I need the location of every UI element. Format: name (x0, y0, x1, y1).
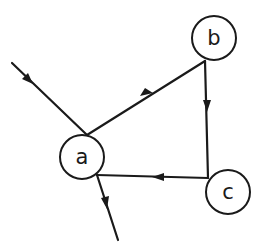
edge-a-to-b (87, 61, 205, 135)
graph-diagram: a b c (0, 0, 265, 249)
edge-in-to-a (12, 63, 87, 135)
arrowhead-c-to-a (152, 173, 164, 181)
edge-a-to-out (97, 175, 118, 240)
node-b: b (192, 16, 236, 60)
node-c: c (206, 170, 250, 214)
node-b-label: b (207, 26, 220, 50)
edge-b-to-c (205, 61, 208, 178)
arrowhead-b-to-c (203, 100, 211, 112)
edges (12, 61, 211, 240)
node-c-label: c (222, 180, 234, 204)
node-a: a (60, 135, 104, 179)
node-a-label: a (76, 145, 89, 169)
edge-c-to-a (97, 175, 208, 178)
